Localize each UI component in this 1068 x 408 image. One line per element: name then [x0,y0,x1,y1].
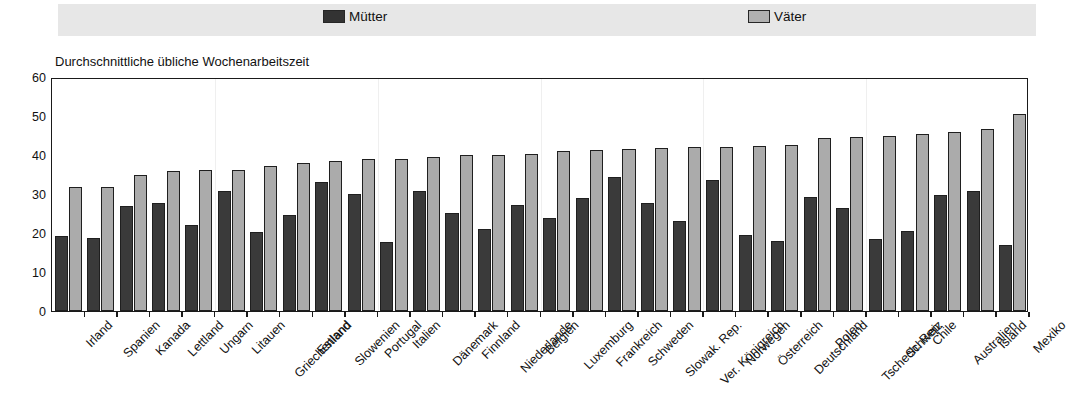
bar-vaeter [362,159,375,311]
gridline [541,79,542,311]
bar-muetter [836,208,849,311]
bar-muetter [576,198,589,311]
legend-item-muetter: Mütter [323,10,387,24]
bar-vaeter [264,166,277,311]
bar-muetter [543,218,556,311]
bar-muetter [673,221,686,311]
y-tick-label: 60 [4,71,46,85]
y-tick-label: 30 [4,188,46,202]
bar-muetter [185,225,198,311]
legend-swatch-muetter [323,10,345,23]
bar-vaeter [590,150,603,311]
bar-muetter [804,197,817,311]
bar-vaeter [785,145,798,311]
bar-muetter [120,206,133,311]
bar-vaeter [557,151,570,311]
bar-vaeter [525,154,538,311]
bar-muetter [413,191,426,312]
bar-vaeter [69,187,82,311]
plot-area [51,78,1028,312]
bar-vaeter [329,161,342,311]
chart-legend: Mütter Väter [58,4,1036,36]
legend-label-muetter: Mütter [349,10,387,24]
bar-muetter [771,241,784,311]
bar-muetter [348,194,361,311]
bar-vaeter [101,187,114,311]
x-tick-label: Island [996,318,1029,351]
x-tick-label: Mexiko [1030,318,1068,356]
chart-title: Durchschnittliche übliche Wochenarbeitsz… [55,54,309,69]
bar-muetter [478,229,491,311]
bar-muetter [55,236,68,311]
bar-vaeter [753,146,766,311]
bar-muetter [608,177,621,311]
x-tick-label: Estland [315,318,354,357]
gridline [378,79,379,311]
bar-vaeter [199,170,212,311]
bar-vaeter [883,136,896,312]
y-tick-label: 50 [4,110,46,124]
bar-muetter [283,215,296,311]
gridline [866,79,867,311]
x-tick-label: Irland [84,318,116,350]
bar-muetter [315,182,328,311]
gridline [215,79,216,311]
bar-muetter [218,191,231,312]
bar-muetter [445,213,458,311]
bar-vaeter [134,175,147,311]
bar-muetter [641,203,654,311]
bar-muetter [87,238,100,311]
bar-vaeter [720,147,733,311]
gridline [703,79,704,311]
bar-muetter [511,205,524,311]
bar-vaeter [688,147,701,311]
bar-vaeter [232,170,245,311]
bar-vaeter [916,134,929,311]
bar-muetter [706,180,719,311]
bar-muetter [999,245,1012,311]
bar-vaeter [981,129,994,311]
bar-vaeter [622,149,635,311]
bar-vaeter [655,148,668,311]
bar-vaeter [297,163,310,311]
x-axis-labels: IrlandSpanienKanadaLettlandUngarnLitauen… [0,312,1044,408]
bar-muetter [152,203,165,311]
y-axis: 0102030405060 [0,78,46,312]
bar-vaeter [395,159,408,311]
bar-vaeter [948,132,961,311]
bar-vaeter [167,171,180,311]
legend-swatch-vaeter [748,10,770,23]
bar-vaeter [850,137,863,311]
bar-vaeter [818,138,831,311]
bar-muetter [250,232,263,311]
x-tick-label: Spanien [120,318,162,360]
y-tick-label: 10 [4,266,46,280]
legend-item-vaeter: Väter [748,10,806,24]
legend-label-vaeter: Väter [774,10,806,24]
bar-muetter [380,242,393,311]
x-tick-label: Litauen [249,318,288,357]
x-tick-label: Lettland [185,318,226,359]
y-tick-label: 40 [4,149,46,163]
bar-vaeter [460,155,473,311]
bar-muetter [967,191,980,312]
bar-muetter [869,239,882,311]
bar-muetter [739,235,752,311]
bar-muetter [934,195,947,311]
bar-muetter [901,231,914,311]
bar-vaeter [1013,114,1026,311]
y-tick-label: 20 [4,227,46,241]
bar-vaeter [427,157,440,311]
bar-vaeter [492,155,505,311]
